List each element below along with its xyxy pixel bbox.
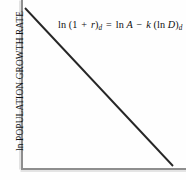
equation-coefficient-k: k	[144, 19, 151, 30]
y-axis-label: ln POPULATION GROWTH RATE	[15, 0, 25, 174]
figure-container: ln POPULATION GROWTH RATE ln (1 + r)d = …	[0, 0, 186, 180]
equation-annotation: ln (1 + r)d = ln A − k (ln D)d	[58, 19, 183, 30]
equation-lhs-open: (1	[66, 19, 80, 30]
equation-rhs-open-paren-ln: (ln	[151, 19, 168, 30]
equation-rhs-constant-A: A	[124, 19, 133, 30]
equation-rhs-subscript-d: d	[179, 24, 183, 32]
equation-lhs-ln: ln	[58, 19, 66, 30]
equation-rhs-ln: ln	[116, 19, 124, 30]
equation-minus-operator: −	[135, 19, 143, 30]
equation-equals-sign: =	[105, 19, 113, 30]
equation-lhs-subscript-d: d	[99, 24, 103, 32]
